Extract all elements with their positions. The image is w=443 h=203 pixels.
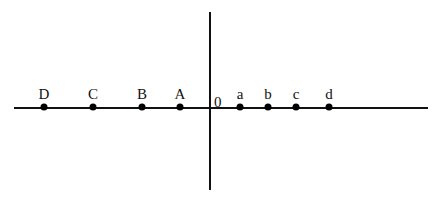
point-label-C: C bbox=[88, 87, 98, 102]
vertical-axis-line bbox=[209, 12, 211, 190]
point-marker-A bbox=[177, 104, 184, 111]
point-label-D: D bbox=[39, 87, 50, 102]
point-marker-a bbox=[237, 104, 244, 111]
point-marker-b bbox=[265, 104, 272, 111]
point-label-b: b bbox=[264, 87, 272, 102]
point-marker-c bbox=[293, 104, 300, 111]
point-marker-D bbox=[41, 104, 48, 111]
point-marker-B bbox=[139, 104, 146, 111]
point-label-A: A bbox=[175, 87, 186, 102]
point-label-a: a bbox=[237, 87, 244, 102]
point-marker-C bbox=[90, 104, 97, 111]
number-line-diagram: 0 DCBAabcd bbox=[0, 0, 443, 203]
origin-label: 0 bbox=[214, 95, 222, 110]
point-marker-d bbox=[326, 104, 333, 111]
point-label-B: B bbox=[137, 87, 147, 102]
point-label-d: d bbox=[325, 87, 333, 102]
point-label-c: c bbox=[293, 87, 300, 102]
